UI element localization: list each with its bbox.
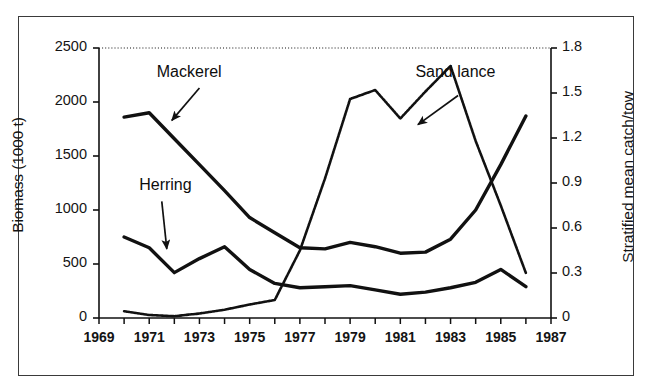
figure-container: Biomass (1000 t) Stratified mean catch/t… — [0, 0, 652, 392]
y-axis-left-tick-label: 500 — [27, 254, 87, 270]
y-axis-right-title: Stratified mean catch/tow — [619, 47, 637, 307]
y-axis-left-tick-label: 1500 — [27, 146, 87, 162]
y-axis-left-tick-label: 1000 — [27, 200, 87, 216]
y-axis-left-tick-label: 2500 — [27, 38, 87, 54]
y-axis-right-tick-label: 0.3 — [562, 263, 608, 279]
y-axis-right-tick-label: 1.8 — [562, 38, 608, 54]
y-axis-right-tick-label: 1.5 — [562, 83, 608, 99]
annotation-label-mackerel: Mackerel — [157, 63, 222, 81]
y-axis-left-tick-label: 2000 — [27, 92, 87, 108]
x-axis-tick-label: 1987 — [521, 329, 581, 345]
y-axis-right-tick-label: 0.9 — [562, 173, 608, 189]
y-axis-right-tick-label: 1.2 — [562, 128, 608, 144]
annotation-label-sand-lance: Sand lance — [415, 63, 495, 81]
y-axis-right-tick-label: 0.6 — [562, 218, 608, 234]
annotation-arrow-sand-lance — [418, 96, 458, 125]
annotation-arrow-mackerel — [172, 88, 200, 120]
y-axis-left-title: Biomass (1000 t) — [9, 75, 27, 275]
annotation-label-herring: Herring — [139, 176, 191, 194]
y-axis-right-tick-label: 0 — [562, 308, 608, 324]
annotation-arrow-herring — [162, 201, 167, 249]
y-axis-left-tick-label: 0 — [27, 308, 87, 324]
series-line-herring — [124, 237, 526, 294]
